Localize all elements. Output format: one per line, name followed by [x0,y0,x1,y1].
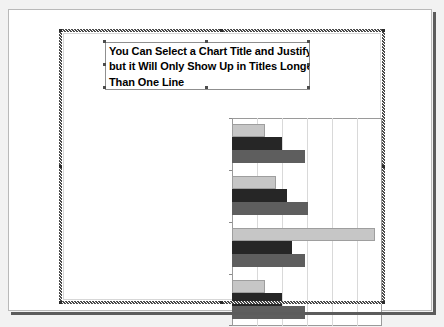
title-handle-top-left[interactable] [103,40,106,43]
chart-title-text: You Can Select a Chart Title and Justify… [109,44,310,90]
gridline [357,118,358,326]
title-handle-top-right[interactable] [307,40,310,43]
resize-handle-middle-left[interactable] [59,165,62,168]
chart-title-textbox[interactable]: You Can Select a Chart Title and Justify… [105,42,310,90]
category-tick [229,118,232,119]
bar-series-1 [232,280,265,293]
resize-handle-bottom-center[interactable] [220,301,223,304]
bar-series-2 [232,241,292,254]
category-tick [229,170,232,171]
title-handle-bottom-left[interactable] [103,86,106,89]
bar-series-2 [232,189,287,202]
chart-title-line-1: You Can Select a Chart Title and Justify… [109,44,310,59]
resize-handle-top-left[interactable] [59,29,62,32]
resize-handle-top-center[interactable] [220,29,223,32]
bar-series-3 [232,150,305,163]
bar-series-2 [232,137,282,150]
title-handle-bottom-right[interactable] [307,86,310,89]
resize-handle-middle-right[interactable] [382,165,385,168]
title-handle-middle-left[interactable] [103,63,106,66]
plot-area[interactable] [232,118,382,326]
category-tick [229,325,232,326]
bar-series-1 [232,228,375,241]
gridline [332,118,333,326]
bar-series-3 [232,254,305,267]
chart-object[interactable]: You Can Select a Chart Title and Justify… [59,29,385,304]
title-handle-bottom-center[interactable] [205,86,208,89]
title-handle-top-center[interactable] [205,40,208,43]
chart-plot-container: You Can Select a Chart Title and Justify… [63,33,381,300]
slide-canvas[interactable]: You Can Select a Chart Title and Justify… [8,9,432,311]
bar-series-1 [232,176,276,189]
slide-shadow-bottom [11,312,436,315]
chart-title-line-3: Than One Line [109,75,310,90]
bar-series-2 [232,293,282,306]
chart-title-line-2: but it Will Only Show Up in Titles Longe… [109,59,310,74]
category-tick [229,222,232,223]
title-handle-middle-right[interactable] [307,63,310,66]
resize-handle-bottom-left[interactable] [59,301,62,304]
gridline [307,118,308,326]
resize-handle-top-right[interactable] [382,29,385,32]
screen-background: You Can Select a Chart Title and Justify… [0,0,444,327]
bar-series-1 [232,124,265,137]
slide-shadow-right [433,12,436,313]
bar-series-3 [232,202,308,215]
category-tick [229,274,232,275]
resize-handle-bottom-right[interactable] [382,301,385,304]
